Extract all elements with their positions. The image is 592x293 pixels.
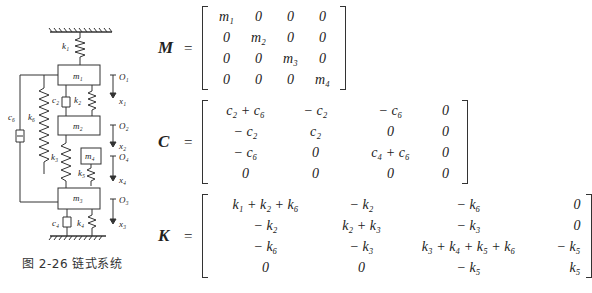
matrix-cell: 0 (274, 27, 306, 48)
label-c2: c₂ (52, 95, 59, 105)
damping-matrix: c₂ + c₆− c₂− c₆0− c₂c₂00− c₆0c₄ + c₆0000… (202, 100, 468, 184)
matrix-cell: m₄ (306, 69, 338, 90)
matrix-cell: m₃ (274, 48, 306, 69)
label-k5: k₅ (78, 168, 85, 178)
matrix-cell: 0 (274, 69, 306, 90)
label-c6: c₆ (8, 112, 15, 122)
mass-matrix: m₁0000m₂0000m₃0000m₄ (202, 6, 346, 90)
matrix-cell: − k₂ (210, 215, 320, 236)
matrix-cell: 0 (210, 257, 320, 278)
matrix-cell: 0 (306, 6, 338, 27)
matrix-cell: 0 (280, 163, 350, 184)
matrix-cell: − k₅ (402, 257, 534, 278)
matrix-cell: 0 (534, 194, 584, 215)
label-k2: k₂ (74, 95, 81, 105)
label-m2: m₂ (73, 121, 83, 131)
matrix-cell: 0 (280, 142, 350, 163)
coord-arrow-x1 (110, 75, 116, 93)
matrix-symbol-K: K (158, 226, 180, 246)
matrix-cell: 0 (242, 48, 274, 69)
label-k4: k₄ (77, 218, 84, 228)
label-O1: O₁ (119, 72, 129, 82)
matrix-cell: − k₆ (210, 236, 320, 257)
matrix-cell: 0 (242, 6, 274, 27)
label-c4: c₄ (52, 218, 59, 228)
label-x1: x₁ (118, 96, 126, 106)
matrix-cell: − c₂ (210, 121, 280, 142)
label-O4: O₄ (119, 152, 129, 162)
label-m4: m₄ (85, 151, 95, 161)
matrix-cell: 0 (210, 163, 280, 184)
matrix-cell: − k₂ (320, 194, 402, 215)
matrix-cell: 0 (320, 257, 402, 278)
matrix-cell: 0 (210, 69, 242, 90)
matrix-cell: c₂ (280, 121, 350, 142)
spring-k5 (87, 164, 95, 186)
matrix-cell: 0 (430, 100, 460, 121)
matrix-cell: k₃ + k₄ + k₅ + k₆ (402, 236, 534, 257)
matrix-cell: 0 (430, 121, 460, 142)
matrix-cell: − k₃ (320, 236, 402, 257)
spring-k1 (75, 32, 85, 65)
matrix-cell: − c₂ (280, 100, 350, 121)
equals-sign: = (184, 134, 192, 151)
label-k6: k₆ (28, 112, 35, 122)
matrix-symbol-M: M (158, 38, 180, 58)
matrix-cell: 0 (306, 27, 338, 48)
matrix-cell: m₂ (242, 27, 274, 48)
matrix-cell: 0 (210, 27, 242, 48)
matrix-cell: 0 (430, 163, 460, 184)
coord-arrow-x3 (110, 199, 116, 219)
label-x3: x₃ (118, 219, 126, 229)
label-k3: k₃ (51, 152, 58, 162)
damper-c2 (62, 85, 70, 116)
label-x2: x₂ (118, 141, 126, 151)
matrix-cell: 0 (430, 142, 460, 163)
matrix-cell: − c₆ (350, 100, 430, 121)
damper-c4 (63, 209, 71, 236)
equals-sign: = (184, 40, 192, 57)
label-m1: m₁ (73, 71, 83, 81)
label-k1: k₁ (62, 41, 69, 51)
spring-k6 (39, 88, 49, 174)
label-m3: m₃ (73, 193, 83, 203)
matrix-cell: − k₃ (402, 215, 534, 236)
matrix-cell: 0 (350, 163, 430, 184)
matrix-cell: − c₆ (210, 142, 280, 163)
spring-k2 (88, 85, 96, 116)
equals-sign: = (184, 228, 192, 245)
spring-k4 (88, 209, 96, 236)
matrix-cell: 0 (242, 69, 274, 90)
matrix-cell: 0 (350, 121, 430, 142)
matrix-cell: c₂ + c₆ (210, 100, 280, 121)
matrix-cell: c₄ + c₆ (350, 142, 430, 163)
matrix-cell: k₁ + k₂ + k₆ (210, 194, 320, 215)
mass-matrix-equation: M = m₁0000m₂0000m₃0000m₄ (158, 6, 346, 90)
matrix-symbol-C: C (158, 132, 180, 152)
matrix-cell: 0 (210, 48, 242, 69)
matrix-cell: 0 (274, 6, 306, 27)
coord-arrow-x4 (110, 156, 116, 176)
matrix-cell: − k₆ (402, 194, 534, 215)
label-O3: O₃ (119, 195, 129, 205)
coord-arrow-x2 (110, 125, 116, 142)
damping-matrix-equation: C = c₂ + c₆− c₂− c₆0− c₂c₂00− c₆0c₄ + c₆… (158, 100, 468, 184)
figure-caption: 图 2-26 链式系统 (22, 254, 122, 271)
matrix-cell: k₂ + k₃ (320, 215, 402, 236)
matrix-cell: 0 (306, 48, 338, 69)
matrix-cell: − k₅ (534, 236, 584, 257)
spring-k3 (61, 135, 71, 188)
chain-system-diagram: k₁ m₁ O₁ x₁ c₂ k₂ c₆ k₆ m₂ O₂ x₂ k₃ m₄ O… (0, 0, 140, 293)
stiffness-matrix-equation: K = k₁ + k₂ + k₆− k₂− k₆0− k₂k₂ + k₃− k₃… (158, 194, 592, 278)
matrix-cell: 0 (534, 215, 584, 236)
label-O2: O₂ (119, 121, 129, 131)
matrix-cell: k₅ (534, 257, 584, 278)
label-x4: x₄ (118, 175, 126, 185)
matrix-cell: m₁ (210, 6, 242, 27)
stiffness-matrix: k₁ + k₂ + k₆− k₂− k₆0− k₂k₂ + k₃− k₃0− k… (202, 194, 592, 278)
